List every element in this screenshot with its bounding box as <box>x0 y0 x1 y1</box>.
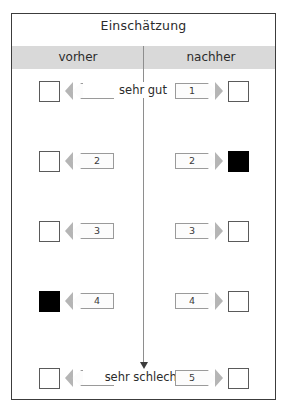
value-tag-after-2: 2 <box>175 153 217 169</box>
checkbox-before-5[interactable] <box>39 368 60 389</box>
tag-wing-before-3-icon <box>65 222 73 240</box>
tag-wing-before-2-icon <box>65 152 73 170</box>
checkbox-before-1[interactable] <box>39 81 60 102</box>
column-header-before: vorher <box>12 47 144 68</box>
tag-wing-after-4-icon <box>215 292 223 310</box>
rating-scale-panel: Einschätzung vorher nachher 1 sehr gut 1… <box>11 13 276 400</box>
value-tag-after-1: 1 <box>175 83 217 99</box>
value-tag-after-5: 5 <box>175 370 217 386</box>
value-tag-before-4: 4 <box>72 293 114 309</box>
table-row: 2 2 <box>12 150 275 174</box>
value-tag-before-3: 3 <box>72 223 114 239</box>
tag-wing-after-5-icon <box>215 369 223 387</box>
tag-wing-after-2-icon <box>215 152 223 170</box>
table-row: 1 sehr gut 1 <box>12 80 275 104</box>
checkbox-after-1[interactable] <box>228 81 249 102</box>
value-tag-after-4: 4 <box>175 293 217 309</box>
tag-wing-after-3-icon <box>215 222 223 240</box>
tag-wing-after-1-icon <box>215 82 223 100</box>
tag-wing-before-5-icon <box>65 369 73 387</box>
checkbox-before-2[interactable] <box>39 151 60 172</box>
table-row: 5 sehr schlecht 5 <box>12 367 275 391</box>
value-tag-after-3: 3 <box>175 223 217 239</box>
checkbox-before-4[interactable] <box>39 291 60 312</box>
checkbox-before-3[interactable] <box>39 221 60 242</box>
tag-wing-before-1-icon <box>65 82 73 100</box>
page-title: Einschätzung <box>12 18 275 33</box>
table-row: 3 3 <box>12 220 275 244</box>
tag-wing-before-4-icon <box>65 292 73 310</box>
checkbox-after-2[interactable] <box>228 151 249 172</box>
table-row: 4 4 <box>12 290 275 314</box>
value-tag-before-2: 2 <box>72 153 114 169</box>
checkbox-after-5[interactable] <box>228 368 249 389</box>
checkbox-after-3[interactable] <box>228 221 249 242</box>
checkbox-after-4[interactable] <box>228 291 249 312</box>
column-header-after: nachher <box>145 47 277 68</box>
